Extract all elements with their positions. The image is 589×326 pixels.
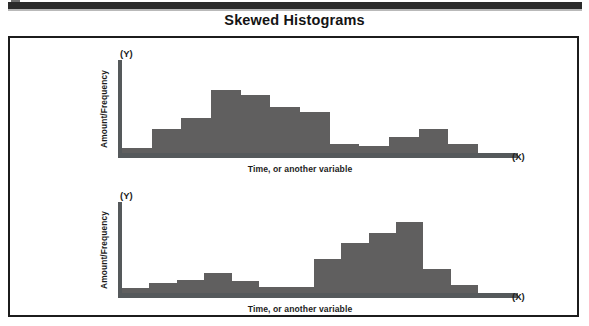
x-axis-title: Time, or another variable	[122, 164, 478, 174]
histogram-bar	[122, 288, 149, 293]
page-title: Skewed Histograms	[0, 12, 589, 28]
histogram-bar	[286, 287, 313, 293]
y-axis-title: Amount/Frequency	[99, 211, 109, 289]
histogram-bar	[181, 118, 211, 153]
x-axis-marker-label: (X)	[512, 151, 525, 162]
y-axis-title: Amount/Frequency	[99, 70, 109, 148]
histogram-bar	[149, 283, 176, 293]
histogram-bar	[300, 112, 330, 153]
histogram-bar	[359, 146, 389, 153]
histogram-bar	[419, 129, 449, 153]
top-divider-rule	[8, 2, 582, 9]
histogram-bar	[177, 280, 204, 293]
histogram-bar	[314, 259, 341, 293]
histogram-bar	[396, 222, 423, 293]
histogram-bar	[448, 144, 478, 153]
histogram-bar	[389, 137, 419, 153]
chart-panel-left-skewed: (Y) (X) Amount/Frequency Time, or anothe…	[10, 188, 581, 316]
histogram-bar	[270, 107, 300, 154]
histogram-bar	[259, 287, 286, 293]
histogram-bar	[369, 233, 396, 293]
top-divider-shadow	[8, 9, 582, 11]
histogram-bar	[241, 95, 271, 153]
bar-series-right-skewed	[122, 60, 478, 153]
histogram-bar	[204, 273, 231, 293]
x-axis-title: Time, or another variable	[122, 304, 478, 314]
histogram-bar	[330, 144, 360, 153]
plot-area-right-skewed: (Y) (X) Amount/Frequency Time, or anothe…	[118, 60, 478, 158]
x-axis-line	[118, 153, 518, 158]
x-axis-line	[118, 293, 518, 298]
histogram-bar	[423, 269, 450, 293]
bar-series-left-skewed	[122, 202, 478, 293]
y-axis-marker-label: (Y)	[120, 190, 133, 201]
histogram-bar	[152, 129, 182, 153]
histogram-bar	[232, 281, 259, 293]
chart-panel-right-skewed: (Y) (X) Amount/Frequency Time, or anothe…	[10, 42, 581, 182]
histogram-bar	[451, 285, 478, 293]
x-axis-marker-label: (X)	[512, 291, 525, 302]
figure-frame: (Y) (X) Amount/Frequency Time, or anothe…	[8, 36, 579, 317]
plot-area-left-skewed: (Y) (X) Amount/Frequency Time, or anothe…	[118, 202, 478, 298]
histogram-bar	[122, 148, 152, 153]
histogram-bar	[341, 243, 368, 293]
y-axis-marker-label: (Y)	[120, 48, 133, 59]
histogram-bar	[211, 90, 241, 153]
